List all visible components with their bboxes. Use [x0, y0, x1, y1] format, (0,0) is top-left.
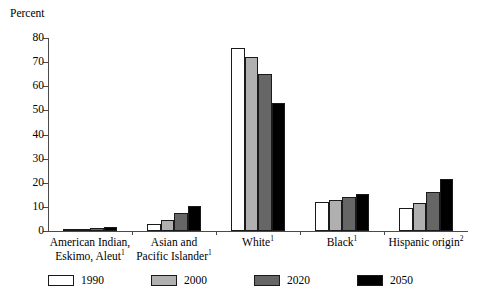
legend-item: 2000 — [151, 272, 207, 288]
x-tick-mark — [384, 231, 385, 235]
footnote-marker: 2 — [460, 234, 464, 243]
bar-group — [315, 38, 369, 231]
bar — [258, 74, 272, 231]
bar-group — [63, 38, 117, 231]
bar — [104, 227, 118, 231]
y-tick-label: 30 — [33, 151, 45, 165]
category-label-line: Pacific Islander1 — [94, 250, 254, 264]
bar — [342, 197, 356, 231]
x-tick-mark — [300, 231, 301, 235]
plot-area: 80706050403020100 — [48, 38, 468, 231]
y-tick-label: 40 — [33, 127, 45, 141]
legend-label: 1990 — [81, 273, 104, 287]
bar-group — [231, 38, 285, 231]
legend-label: 2020 — [287, 273, 310, 287]
bar — [399, 208, 413, 231]
legend-label: 2050 — [390, 273, 413, 287]
y-tick-label: 70 — [33, 54, 45, 68]
bar — [245, 57, 259, 231]
y-tick-label: 80 — [33, 30, 45, 44]
bar — [413, 203, 427, 231]
bar — [90, 228, 104, 231]
bar — [231, 48, 245, 231]
y-axis-line — [48, 38, 49, 231]
bar — [329, 200, 343, 231]
bar — [188, 206, 202, 231]
category-label-line: Hispanic origin2 — [346, 236, 482, 250]
bar-group — [399, 38, 453, 231]
legend-swatch — [48, 275, 74, 286]
legend: 1990200020202050 — [48, 272, 468, 292]
bar — [63, 229, 77, 231]
y-tick-label: 0 — [38, 223, 44, 237]
bar — [77, 229, 91, 231]
legend-swatch — [357, 275, 383, 286]
x-axis-line — [48, 231, 468, 232]
legend-swatch — [254, 275, 280, 286]
legend-item: 2020 — [254, 272, 310, 288]
bar — [161, 220, 175, 231]
bar — [272, 103, 286, 231]
x-tick-mark — [216, 231, 217, 235]
y-tick-label: 50 — [33, 102, 45, 116]
bar — [440, 179, 454, 231]
x-tick-mark — [132, 231, 133, 235]
bar — [356, 194, 370, 231]
y-tick-label: 60 — [33, 78, 45, 92]
legend-item: 2050 — [357, 272, 413, 288]
x-axis-category-label: Hispanic origin2 — [346, 236, 482, 250]
legend-swatch — [151, 275, 177, 286]
legend-label: 2000 — [184, 273, 207, 287]
bar — [174, 213, 188, 231]
legend-item: 1990 — [48, 272, 104, 288]
bar — [426, 192, 440, 231]
bar-chart-figure: Percent 80706050403020100 American India… — [0, 0, 482, 305]
bar — [315, 202, 329, 231]
bar-group — [147, 38, 201, 231]
y-axis-title: Percent — [10, 6, 44, 20]
bar — [147, 224, 161, 231]
y-tick-label: 10 — [33, 199, 45, 213]
y-tick-label: 20 — [33, 175, 45, 189]
